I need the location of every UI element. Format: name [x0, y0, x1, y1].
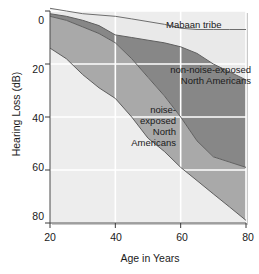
series-label-noise-exposed: noise- exposed North Americans [100, 104, 176, 148]
chart-figure: Hearing Loss (dB) Age in Years 0 20 40 6… [0, 0, 259, 274]
series-label-line: North Americans [139, 75, 251, 86]
series-label-line: non-noise-exposed [139, 64, 251, 75]
series-label-line: North [100, 126, 176, 137]
series-label-line: Americans [100, 137, 176, 148]
series-label-line: exposed [100, 115, 176, 126]
series-label-mabaan-tribe: Mabaan tribe [166, 19, 221, 30]
series-label-line: noise- [100, 104, 176, 115]
series-label-line: Mabaan tribe [166, 19, 221, 30]
series-label-non-noise-exposed: non-noise-exposed North Americans [139, 64, 251, 86]
